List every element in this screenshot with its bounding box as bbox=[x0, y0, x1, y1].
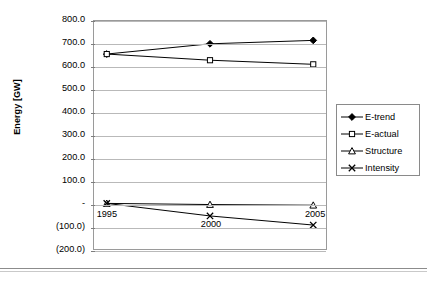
legend-label: E-actual bbox=[364, 129, 399, 139]
gridline bbox=[94, 113, 326, 114]
x-tick-label: 1995 bbox=[85, 209, 129, 219]
legend-marker-open-triangle-icon bbox=[340, 144, 364, 158]
y-tick-label: 800.0 bbox=[21, 15, 85, 24]
y-tick-label: 600.0 bbox=[21, 61, 85, 70]
y-axis-tick bbox=[91, 90, 95, 91]
legend-item-e-actual[interactable]: E-actual bbox=[340, 125, 419, 142]
y-axis-tick bbox=[91, 205, 95, 206]
legend-label: E-trend bbox=[364, 112, 395, 122]
y-axis-tick bbox=[91, 251, 95, 252]
y-axis-tick bbox=[91, 113, 95, 114]
legend-item-structure[interactable]: Structure bbox=[340, 142, 419, 159]
data-point-marker bbox=[349, 131, 354, 136]
x-tick-label: 2000 bbox=[189, 219, 233, 229]
gridline bbox=[94, 205, 326, 206]
y-axis-tick bbox=[91, 44, 95, 45]
y-axis-tick bbox=[91, 159, 95, 160]
y-axis-tick bbox=[91, 228, 95, 229]
plot-area: 199520002005 bbox=[93, 20, 327, 250]
y-axis-tick-labels: 800.0700.0600.0500.0400.0300.0200.0100.0… bbox=[21, 0, 85, 281]
y-tick-label: 200.0 bbox=[21, 153, 85, 162]
legend-marker-filled-diamond-icon bbox=[340, 110, 364, 124]
y-axis-tick bbox=[91, 136, 95, 137]
legend-label: Intensity bbox=[364, 163, 399, 173]
y-tick-label: 400.0 bbox=[21, 107, 85, 116]
chart-legend: E-trendE-actualStructureIntensity bbox=[336, 104, 420, 176]
legend-label: Structure bbox=[364, 146, 402, 156]
legend-item-e-trend[interactable]: E-trend bbox=[340, 108, 419, 125]
data-point-marker bbox=[349, 113, 356, 120]
gridline bbox=[94, 21, 326, 22]
gridline bbox=[94, 90, 326, 91]
legend-marker-open-square-icon bbox=[340, 127, 364, 141]
y-tick-label: (100.0) bbox=[21, 222, 85, 231]
y-axis-tick bbox=[91, 21, 95, 22]
y-tick-label: 300.0 bbox=[21, 130, 85, 139]
footer-rule bbox=[0, 268, 427, 269]
y-tick-label: (200.0) bbox=[21, 245, 85, 254]
x-tick-label: 2005 bbox=[293, 209, 337, 219]
legend-item-intensity[interactable]: Intensity bbox=[340, 159, 419, 176]
legend-marker-cross-x-icon bbox=[340, 161, 364, 175]
chart-figure: Energy [GW] 800.0700.0600.0500.0400.0300… bbox=[0, 0, 427, 281]
data-point-marker bbox=[104, 51, 109, 56]
y-tick-label: 100.0 bbox=[21, 176, 85, 185]
y-tick-label: 500.0 bbox=[21, 84, 85, 93]
series-e-trend bbox=[103, 37, 316, 57]
footer-rule-secondary bbox=[0, 271, 427, 272]
gridline bbox=[94, 251, 326, 252]
gridline bbox=[94, 182, 326, 183]
y-tick-label: 700.0 bbox=[21, 38, 85, 47]
data-point-marker bbox=[207, 58, 212, 63]
gridline bbox=[94, 159, 326, 160]
y-axis-tick bbox=[91, 67, 95, 68]
gridline bbox=[94, 67, 326, 68]
gridline bbox=[94, 44, 326, 45]
y-tick-label: - bbox=[21, 199, 85, 208]
series-e-actual bbox=[104, 51, 316, 66]
y-axis-tick bbox=[91, 182, 95, 183]
gridline bbox=[94, 136, 326, 137]
